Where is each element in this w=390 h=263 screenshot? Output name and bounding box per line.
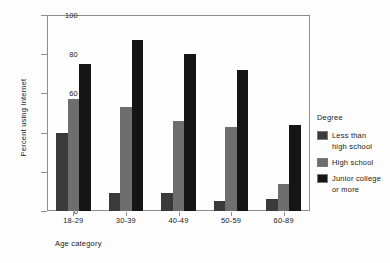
bar bbox=[214, 201, 226, 211]
x-tick-label: 18-29 bbox=[43, 216, 103, 225]
x-tick-mark bbox=[284, 212, 285, 216]
bar bbox=[79, 64, 91, 211]
bar bbox=[68, 99, 80, 211]
y-tick-mark bbox=[41, 15, 47, 16]
y-tick-mark bbox=[41, 133, 47, 134]
y-tick-mark bbox=[41, 93, 47, 94]
x-tick-mark bbox=[73, 212, 74, 216]
bar bbox=[109, 193, 121, 211]
legend-label: Junior college or more bbox=[332, 173, 381, 195]
legend-swatch bbox=[317, 158, 328, 167]
y-tick-mark bbox=[41, 211, 47, 212]
bar bbox=[289, 125, 301, 211]
x-tick-mark bbox=[179, 212, 180, 216]
chart-canvas: Percent using Internet 020406080100 18-2… bbox=[0, 0, 390, 263]
bar bbox=[120, 107, 132, 211]
legend-label: High school bbox=[332, 157, 373, 168]
x-tick-mark bbox=[231, 212, 232, 216]
bar bbox=[173, 121, 185, 211]
bar bbox=[266, 199, 278, 211]
y-tick-mark bbox=[41, 54, 47, 55]
legend-entry: Less than high school bbox=[317, 130, 389, 152]
bar bbox=[184, 54, 196, 211]
y-tick-mark bbox=[41, 172, 47, 173]
y-axis-label: Percent using Internet bbox=[19, 43, 28, 193]
bar bbox=[56, 133, 68, 211]
x-axis-label: Age category bbox=[55, 239, 102, 248]
legend-entry: High school bbox=[317, 157, 389, 168]
x-tick-label: 30-39 bbox=[96, 216, 156, 225]
x-tick-label: 60-89 bbox=[254, 216, 314, 225]
bar bbox=[237, 70, 249, 211]
legend-swatch bbox=[317, 174, 328, 183]
x-tick-mark bbox=[126, 212, 127, 216]
legend-entries: Less than high schoolHigh schoolJunior c… bbox=[317, 130, 389, 195]
x-tick-label: 40-49 bbox=[149, 216, 209, 225]
legend-title: Degree bbox=[317, 113, 389, 122]
legend-entry: Junior college or more bbox=[317, 173, 389, 195]
bar bbox=[161, 193, 173, 211]
legend: Degree Less than high schoolHigh schoolJ… bbox=[317, 113, 389, 200]
legend-swatch bbox=[317, 131, 328, 140]
bar bbox=[132, 40, 144, 211]
x-tick-label: 50-59 bbox=[201, 216, 261, 225]
legend-label: Less than high school bbox=[332, 130, 372, 152]
bar bbox=[278, 184, 290, 211]
bar bbox=[225, 127, 237, 211]
